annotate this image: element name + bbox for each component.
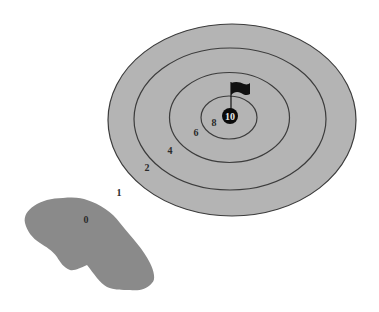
score-label-2: 2 (145, 162, 150, 173)
sand-bunker (25, 198, 155, 291)
score-label-1: 1 (117, 187, 122, 198)
golf-target-diagram: 10 864210 (0, 0, 379, 312)
score-label-4: 4 (168, 145, 173, 156)
score-label-8: 8 (212, 117, 217, 128)
score-label-6: 6 (194, 127, 199, 138)
hole-score-label: 10 (225, 111, 235, 122)
score-label-0: 0 (84, 214, 89, 225)
diagram-canvas: 10 864210 (0, 0, 379, 312)
